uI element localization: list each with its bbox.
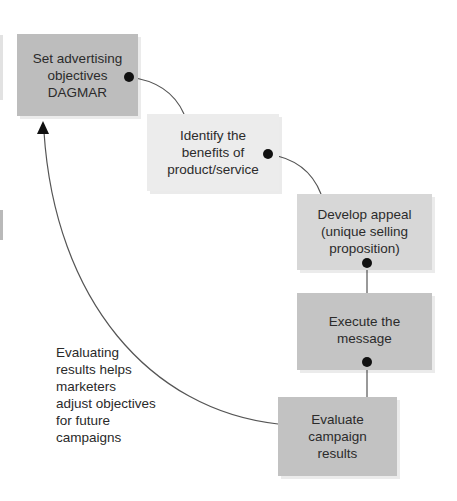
note-line: Evaluating — [56, 344, 156, 361]
note-line: results helps — [56, 361, 156, 378]
scan-artifact — [0, 210, 3, 240]
connector-dot — [362, 258, 372, 268]
scan-artifact — [0, 35, 3, 100]
connector-dot — [362, 357, 372, 367]
note-line: marketers — [56, 378, 156, 395]
connector-dot — [263, 149, 273, 159]
note-line: for future — [56, 412, 156, 429]
feedback-note: Evaluating results helps marketers adjus… — [56, 344, 156, 446]
connector-dot — [124, 72, 134, 82]
note-line: campaigns — [56, 429, 156, 446]
note-line: adjust objectives — [56, 395, 156, 412]
